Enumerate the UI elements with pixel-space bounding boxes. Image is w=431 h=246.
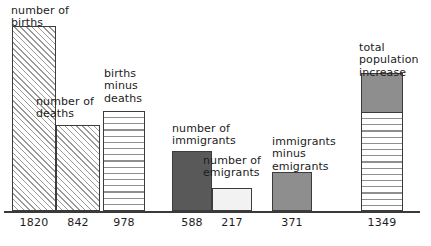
- value-label-births: 1820: [8, 216, 60, 229]
- value-label-emigrants: 217: [211, 216, 253, 229]
- bar-number-of-emigrants: [212, 188, 252, 211]
- bar-number-of-deaths: [56, 125, 100, 211]
- annotation-number-of-deaths: number of deaths: [36, 96, 94, 121]
- bar-total-population-increase: [361, 73, 403, 211]
- stack-segment-immigrants-minus-emigrants: [362, 74, 402, 113]
- stack-segment-births-minus-deaths: [362, 113, 402, 210]
- value-label-births-minus-deaths: 978: [101, 216, 147, 229]
- value-label-deaths: 842: [54, 216, 102, 229]
- bar-births-minus-deaths: [103, 111, 145, 211]
- annotation-total-population-increase: total population increase: [359, 42, 419, 79]
- annotation-immigrants-minus-emigrants: immigrants minus emigrants: [272, 136, 336, 173]
- axis-baseline: [4, 211, 420, 213]
- population-increase-bar-chart: 1820 842 978 588 217 371 1349 number of …: [0, 0, 431, 246]
- annotation-number-of-births: number of births: [11, 5, 69, 30]
- annotation-births-minus-deaths: births minus deaths: [104, 68, 142, 105]
- value-label-total-population-increase: 1349: [359, 216, 405, 229]
- value-label-immigrants-minus-emigrants: 371: [271, 216, 313, 229]
- annotation-number-of-immigrants: number of immigrants: [172, 123, 236, 148]
- value-label-immigrants: 588: [169, 216, 215, 229]
- bar-immigrants-minus-emigrants: [272, 172, 312, 211]
- annotation-number-of-emigrants: number of emigrants: [203, 155, 261, 180]
